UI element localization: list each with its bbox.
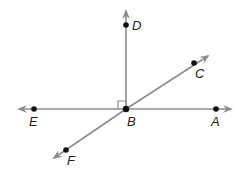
label-a: A bbox=[210, 114, 220, 129]
label-c: C bbox=[195, 66, 205, 81]
point-f bbox=[63, 147, 69, 153]
label-b: B bbox=[127, 114, 136, 129]
point-b bbox=[123, 106, 129, 112]
label-f: F bbox=[67, 153, 76, 168]
point-a bbox=[213, 106, 219, 112]
geometry-diagram: D C E B A F bbox=[0, 0, 238, 172]
point-c bbox=[191, 60, 197, 66]
point-e bbox=[31, 106, 37, 112]
label-d: D bbox=[132, 18, 141, 33]
label-e: E bbox=[29, 114, 38, 129]
point-d bbox=[123, 22, 129, 28]
